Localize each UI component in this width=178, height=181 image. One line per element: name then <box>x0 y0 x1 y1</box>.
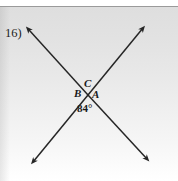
vertex-label-c: C <box>84 78 91 89</box>
angle-measure-label: 84° <box>77 103 92 114</box>
worksheet-figure-panel: 16) C B A 84° <box>0 0 178 181</box>
vertex-label-b: B <box>74 88 81 99</box>
ray-to-top-left <box>28 29 88 95</box>
ray-to-top-right <box>88 29 143 95</box>
problem-number-label: 16) <box>5 27 22 40</box>
ray-to-bottom-right <box>88 95 147 159</box>
vertex-label-a: A <box>92 89 99 100</box>
intersecting-lines-diagram <box>0 0 178 181</box>
